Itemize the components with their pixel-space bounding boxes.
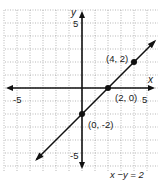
x-axis — [6, 85, 155, 91]
point-label-4-2: (4, 2) — [106, 53, 128, 64]
y-tick-neg5: -5 — [70, 150, 78, 161]
x-axis-left-arrow-icon — [6, 85, 13, 91]
grid — [4, 10, 158, 172]
y-tick-5: 5 — [73, 18, 78, 29]
y-axis-label: y — [70, 7, 77, 18]
x-tick-neg5: -5 — [13, 94, 21, 105]
x-tick-5: 5 — [142, 94, 147, 105]
y-axis-up-arrow-icon — [79, 11, 85, 18]
equation-label: x −y = 2 — [109, 169, 145, 180]
x-axis-right-arrow-icon — [148, 85, 155, 91]
line-x-minus-y-equals-2 — [35, 40, 156, 161]
y-axis — [79, 11, 85, 169]
data-point — [79, 111, 85, 117]
data-point — [105, 85, 111, 91]
coordinate-plane: y x 5 -5 -5 5 (4, 2) (2, 0) (0, -2) x −y… — [0, 0, 163, 184]
data-point — [131, 59, 137, 65]
x-axis-label: x — [147, 74, 154, 85]
y-axis-down-arrow-icon — [79, 162, 85, 169]
point-label-2-0: (2, 0) — [115, 92, 137, 103]
point-label-0-neg2: (0, -2) — [88, 119, 113, 130]
